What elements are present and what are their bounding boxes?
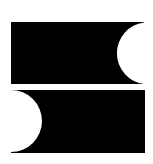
logo-canvas xyxy=(0,0,153,164)
logo-graphic xyxy=(0,0,153,164)
